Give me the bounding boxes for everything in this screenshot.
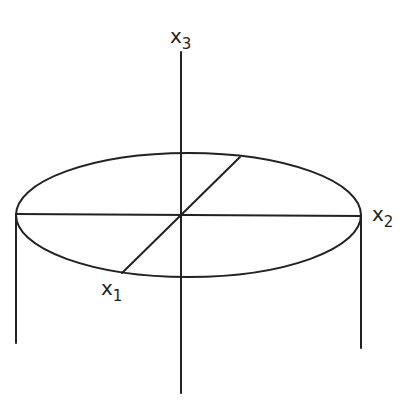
label-x2-sub: 2: [384, 213, 394, 231]
label-x2: x2: [372, 204, 393, 230]
label-x1-sub: 1: [113, 287, 123, 305]
label-x1: x1: [101, 278, 122, 304]
label-x1-base: x: [101, 276, 113, 300]
label-x3: x3: [170, 26, 191, 52]
diagram-svg: [0, 0, 410, 409]
diagram-canvas: x3 x2 x1: [0, 0, 410, 409]
axis-x2: [16, 214, 361, 216]
label-x2-base: x: [372, 202, 384, 226]
label-x3-base: x: [170, 24, 182, 48]
label-x3-sub: 3: [182, 35, 192, 53]
